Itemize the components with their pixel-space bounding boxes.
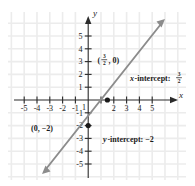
y-axis-name: y — [92, 8, 97, 18]
y-intercept-note-prefix-italic: y — [102, 135, 107, 144]
x-intercept-point-denominator: 2 — [103, 60, 106, 66]
annotation-y-intercept-point: (0, −2) — [31, 124, 53, 133]
y-intercept-note-prefix-rest: -intercept: −2 — [107, 135, 153, 144]
x-tick-label: -4 — [34, 104, 41, 113]
point-x-intercept — [105, 97, 110, 102]
x-intercept-point-open-paren: ( — [98, 56, 101, 65]
annotation-y-intercept-note: y -intercept: −2 — [102, 135, 154, 144]
x-tick-label: -3 — [46, 104, 53, 113]
x-tick-label: 2 — [112, 104, 116, 113]
x-intercept-note-numerator: 3 — [178, 71, 181, 77]
x-intercept-point-rest: , 0) — [108, 56, 119, 65]
y-tick-label: 3 — [79, 57, 83, 66]
y-tick-label: -5 — [76, 160, 83, 169]
y-tick-label: -4 — [76, 147, 83, 156]
x-tick-label: 3 — [125, 104, 129, 113]
y-tick-label: 5 — [79, 32, 83, 41]
point-y-intercept — [86, 123, 91, 128]
x-tick-label: 5 — [150, 104, 154, 113]
x-tick-label-one: 1 — [82, 103, 86, 112]
y-tick-label: -3 — [76, 134, 83, 143]
graph-figure: -5 -4 -3 -2 -1 2 3 4 5 5 4 3 2 1 -1 -2 -… — [0, 0, 195, 186]
x-intercept-note-prefix-italic: x — [129, 74, 134, 83]
x-tick-label: -5 — [21, 104, 28, 113]
x-intercept-point-numerator: 3 — [103, 53, 106, 59]
y-tick-label: 4 — [79, 45, 83, 54]
x-tick-label: -2 — [59, 104, 66, 113]
x-axis-name: x — [178, 90, 183, 100]
y-tick-label: 2 — [79, 70, 83, 79]
coordinate-plane-svg: -5 -4 -3 -2 -1 2 3 4 5 5 4 3 2 1 -1 -2 -… — [0, 0, 195, 186]
x-intercept-note-prefix-rest: -intercept: — [135, 74, 171, 83]
x-tick-label: 4 — [137, 104, 141, 113]
y-tick-label: 1 — [79, 83, 83, 92]
x-intercept-note-denominator: 2 — [178, 78, 181, 84]
